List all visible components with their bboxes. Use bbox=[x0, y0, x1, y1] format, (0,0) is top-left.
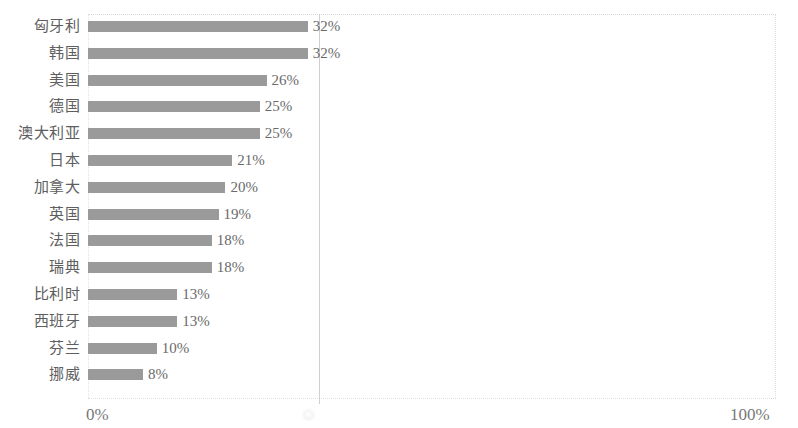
x-axis-tick-mid: ☺ bbox=[300, 404, 317, 426]
bar-category-label: 西班牙 bbox=[0, 313, 80, 330]
bar-rows: 匈牙利32%韩国32%美国26%德国25%澳大利亚25%日本21%加拿大20%英… bbox=[0, 18, 798, 393]
bar-track: 13% bbox=[88, 316, 775, 327]
bar-track: 32% bbox=[88, 21, 775, 32]
bar-category-label: 德国 bbox=[0, 98, 80, 115]
bar bbox=[88, 343, 157, 354]
bar-track: 10% bbox=[88, 343, 775, 354]
bar-row: 英国19% bbox=[0, 206, 798, 233]
bar-row: 比利时13% bbox=[0, 286, 798, 313]
bar bbox=[88, 48, 308, 59]
bar-category-label: 比利时 bbox=[0, 286, 80, 303]
bar-category-label: 挪威 bbox=[0, 366, 80, 383]
bar-row: 美国26% bbox=[0, 72, 798, 99]
bar-row: 澳大利亚25% bbox=[0, 125, 798, 152]
bar-category-label: 加拿大 bbox=[0, 179, 80, 196]
bar-category-label: 韩国 bbox=[0, 45, 80, 62]
x-axis-tick-labels: 0% ☺ 100% bbox=[0, 404, 798, 428]
bar-category-label: 美国 bbox=[0, 72, 80, 89]
bar-row: 法国18% bbox=[0, 232, 798, 259]
bar-row: 匈牙利32% bbox=[0, 18, 798, 45]
bar-value-label: 21% bbox=[237, 151, 265, 170]
bar-category-label: 芬兰 bbox=[0, 340, 80, 357]
bar bbox=[88, 21, 308, 32]
x-axis-tick-min: 0% bbox=[86, 404, 109, 426]
bar-track: 25% bbox=[88, 101, 775, 112]
bar-track: 8% bbox=[88, 369, 775, 380]
plot-top-border bbox=[88, 14, 776, 15]
bar-category-label: 匈牙利 bbox=[0, 18, 80, 35]
bar-row: 加拿大20% bbox=[0, 179, 798, 206]
bar bbox=[88, 262, 212, 273]
bar bbox=[88, 182, 225, 193]
bar-track: 19% bbox=[88, 209, 775, 220]
bar-value-label: 10% bbox=[162, 339, 190, 358]
bar-value-label: 13% bbox=[182, 312, 210, 331]
bar bbox=[88, 289, 177, 300]
bar-track: 26% bbox=[88, 75, 775, 86]
bar-track: 18% bbox=[88, 235, 775, 246]
bar-track: 32% bbox=[88, 48, 775, 59]
bar-value-label: 25% bbox=[265, 97, 293, 116]
bar-row: 芬兰10% bbox=[0, 340, 798, 367]
bar-category-label: 法国 bbox=[0, 232, 80, 249]
bar-value-label: 13% bbox=[182, 285, 210, 304]
bar-row: 瑞典18% bbox=[0, 259, 798, 286]
bar-row: 韩国32% bbox=[0, 45, 798, 72]
bar-row: 挪威8% bbox=[0, 366, 798, 393]
bar-track: 20% bbox=[88, 182, 775, 193]
bar bbox=[88, 101, 260, 112]
bar-value-label: 18% bbox=[217, 258, 245, 277]
bar bbox=[88, 316, 177, 327]
bar-value-label: 26% bbox=[272, 71, 300, 90]
bar-category-label: 日本 bbox=[0, 152, 80, 169]
bar-category-label: 澳大利亚 bbox=[0, 125, 80, 142]
bar bbox=[88, 209, 219, 220]
bar bbox=[88, 155, 232, 166]
bar-row: 日本21% bbox=[0, 152, 798, 179]
bar bbox=[88, 235, 212, 246]
x-axis-tick-max: 100% bbox=[730, 404, 770, 426]
bar bbox=[88, 369, 143, 380]
bar bbox=[88, 128, 260, 139]
bar-category-label: 英国 bbox=[0, 206, 80, 223]
bar-value-label: 25% bbox=[265, 124, 293, 143]
bar-value-label: 32% bbox=[313, 44, 341, 63]
bar-track: 21% bbox=[88, 155, 775, 166]
bar-chart: 匈牙利32%韩国32%美国26%德国25%澳大利亚25%日本21%加拿大20%英… bbox=[0, 0, 798, 428]
bar-category-label: 瑞典 bbox=[0, 259, 80, 276]
plot-baseline bbox=[88, 398, 776, 399]
bar-value-label: 32% bbox=[313, 17, 341, 36]
bar bbox=[88, 75, 267, 86]
bar-track: 25% bbox=[88, 128, 775, 139]
bar-row: 德国25% bbox=[0, 98, 798, 125]
bar-track: 13% bbox=[88, 289, 775, 300]
bar-value-label: 19% bbox=[224, 205, 252, 224]
bar-track: 18% bbox=[88, 262, 775, 273]
bar-value-label: 18% bbox=[217, 231, 245, 250]
bar-value-label: 8% bbox=[148, 365, 168, 384]
bar-value-label: 20% bbox=[230, 178, 258, 197]
bar-row: 西班牙13% bbox=[0, 313, 798, 340]
